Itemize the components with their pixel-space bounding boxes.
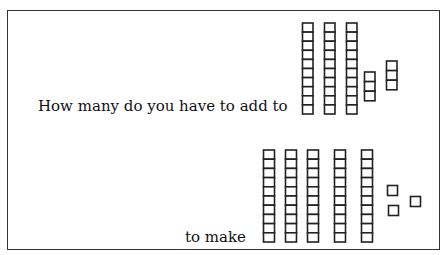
unit-cube: [264, 178, 275, 187]
tens-rod: [308, 150, 319, 242]
unit-cube: [335, 233, 346, 242]
unit-cube: [303, 59, 314, 68]
unit-cube: [286, 233, 297, 242]
unit-cube: [325, 41, 336, 50]
unit-cube: [264, 150, 275, 159]
tens-rod: [362, 150, 373, 242]
unit-cube: [264, 159, 275, 168]
unit-cube: [335, 214, 346, 223]
unit-cube: [308, 224, 319, 233]
unit-cube: [325, 96, 336, 105]
unit-cube: [362, 159, 373, 168]
unit-cube: [347, 105, 358, 114]
unit-cube: [308, 233, 319, 242]
unit-cube: [362, 178, 373, 187]
tens-rod: [335, 150, 346, 242]
unit-cube: [335, 196, 346, 205]
unit-cube: [347, 87, 358, 96]
unit-cube: [362, 168, 373, 177]
tens-rod: [286, 150, 297, 242]
unit-cube: [387, 61, 398, 71]
unit-cube: [325, 78, 336, 87]
unit-cube: [335, 159, 346, 168]
unit-cube: [286, 178, 297, 187]
unit-cube: [411, 197, 421, 207]
unit-cube: [347, 59, 358, 68]
unit-cube: [347, 69, 358, 78]
unit-cube: [303, 50, 314, 59]
unit-cube: [325, 59, 336, 68]
ones-stack: [365, 72, 376, 101]
unit-cube: [303, 41, 314, 50]
unit-cube: [308, 205, 319, 214]
unit-cube: [387, 80, 398, 90]
unit-cube: [347, 50, 358, 59]
unit-cube: [264, 168, 275, 177]
unit-cube: [362, 196, 373, 205]
unit-cube: [389, 206, 399, 216]
unit-cube: [264, 196, 275, 205]
unit-cube: [365, 91, 376, 101]
tens-rod: [325, 23, 336, 114]
unit-cube: [286, 150, 297, 159]
tens-rod: [264, 150, 275, 242]
unit-cube: [362, 214, 373, 223]
unit-cube: [303, 32, 314, 41]
unit-cube: [286, 196, 297, 205]
unit-cube: [325, 23, 336, 32]
unit-cube: [286, 224, 297, 233]
unit-cube: [308, 187, 319, 196]
unit-cube: [325, 87, 336, 96]
unit-cube: [286, 159, 297, 168]
unit-cube: [264, 233, 275, 242]
unit-cube: [264, 224, 275, 233]
unit-cube: [335, 150, 346, 159]
unit-cube: [286, 168, 297, 177]
unit-cube: [362, 205, 373, 214]
unit-cube: [264, 187, 275, 196]
unit-cube: [264, 214, 275, 223]
unit-cube: [264, 205, 275, 214]
unit-cube: [365, 82, 376, 92]
unit-cube: [347, 78, 358, 87]
ones-stack: [387, 61, 398, 90]
unit-cube: [335, 168, 346, 177]
unit-cube: [335, 178, 346, 187]
unit-cube: [308, 159, 319, 168]
unit-cube: [347, 32, 358, 41]
unit-cube: [303, 69, 314, 78]
unit-cube: [362, 187, 373, 196]
unit-cube: [308, 150, 319, 159]
unit-cube: [325, 69, 336, 78]
unit-cube: [362, 150, 373, 159]
unit-cube: [365, 72, 376, 82]
unit-cube: [308, 214, 319, 223]
unit-cube: [325, 50, 336, 59]
unit-cube: [347, 96, 358, 105]
unit-cube: [286, 187, 297, 196]
tens-rod: [303, 23, 314, 114]
target-quantity-blocks: [264, 150, 421, 242]
unit-cube: [308, 196, 319, 205]
unit-cube: [362, 233, 373, 242]
unit-cube: [325, 32, 336, 41]
unit-cube: [335, 187, 346, 196]
unit-cube: [387, 71, 398, 81]
unit-cube: [335, 205, 346, 214]
unit-cube: [286, 214, 297, 223]
unit-cube: [362, 224, 373, 233]
unit-cube: [308, 178, 319, 187]
unit-cube: [335, 224, 346, 233]
unit-cube: [303, 23, 314, 32]
unit-cube: [308, 168, 319, 177]
unit-cube: [303, 96, 314, 105]
unit-cube: [347, 41, 358, 50]
unit-cube: [325, 105, 336, 114]
unit-cube: [388, 186, 398, 196]
unit-cube: [303, 87, 314, 96]
first-quantity-blocks: [303, 23, 398, 114]
unit-cube: [303, 78, 314, 87]
tens-rod: [347, 23, 358, 114]
unit-cube: [286, 205, 297, 214]
base-ten-blocks-canvas: [0, 0, 444, 255]
